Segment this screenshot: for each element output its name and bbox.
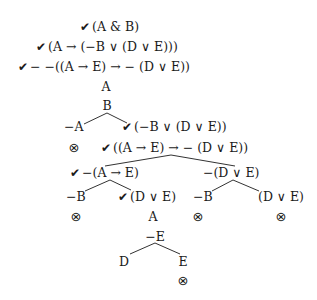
- node-b: B: [102, 99, 111, 113]
- node-neg-a: −A: [64, 120, 84, 134]
- node-disjunction: ✔(−B ∨ (D ∨ E)): [122, 120, 227, 134]
- closed-branch-icon: ⊗: [71, 210, 82, 224]
- node-neg-b-right: −B: [193, 190, 213, 204]
- node-neg-e: −E: [145, 230, 165, 244]
- node-conditional: ✔((A → E) → − (D ∨ E)): [101, 141, 248, 155]
- branch-line: [212, 180, 233, 191]
- node-d-or-e-left: ✔(D ∨ E): [118, 190, 176, 204]
- branch-line: [110, 180, 131, 190]
- node-a-2: A: [148, 210, 157, 224]
- closed-branch-icon: ⊗: [178, 274, 189, 288]
- formula: − −((A → E) → − (D ∨ E)): [30, 59, 190, 74]
- check-icon: ✔: [101, 141, 111, 155]
- formula: −(A → E): [82, 165, 139, 180]
- node-neg-b-left: −B: [66, 190, 86, 204]
- check-icon: ✔: [70, 166, 80, 180]
- check-icon: ✔: [36, 40, 46, 54]
- formula: (A → (−B ∨ (D ∨ E))): [48, 39, 178, 54]
- premise-1: ✔(A & B): [80, 20, 139, 34]
- node-a: A: [101, 80, 110, 94]
- branch-line: [233, 180, 259, 191]
- formula: (A & B): [92, 19, 139, 34]
- premise-2: ✔(A → (−B ∨ (D ∨ E))): [36, 40, 178, 54]
- node-d: D: [119, 255, 129, 269]
- formula: (−B ∨ (D ∨ E)): [134, 119, 227, 134]
- branch-line: [155, 243, 180, 254]
- check-icon: ✔: [18, 60, 28, 74]
- closed-branch-icon: ⊗: [69, 141, 80, 155]
- closed-branch-icon: ⊗: [276, 210, 287, 224]
- node-neg-a-implies-e: ✔−(A → E): [70, 166, 139, 180]
- check-icon: ✔: [80, 20, 90, 34]
- formula: (D ∨ E): [130, 189, 176, 204]
- branch-line: [84, 113, 107, 124]
- node-d-or-e-right: (D ∨ E): [258, 190, 304, 204]
- node-e: E: [178, 255, 187, 269]
- branch-line: [85, 180, 110, 191]
- node-neg-d-or-e: −(D ∨ E): [203, 166, 259, 180]
- formula: ((A → E) → − (D ∨ E)): [113, 140, 248, 155]
- premise-3: ✔− −((A → E) → − (D ∨ E)): [18, 60, 190, 74]
- check-icon: ✔: [122, 120, 132, 134]
- branch-line: [130, 243, 155, 254]
- closed-branch-icon: ⊗: [193, 210, 204, 224]
- check-icon: ✔: [118, 190, 128, 204]
